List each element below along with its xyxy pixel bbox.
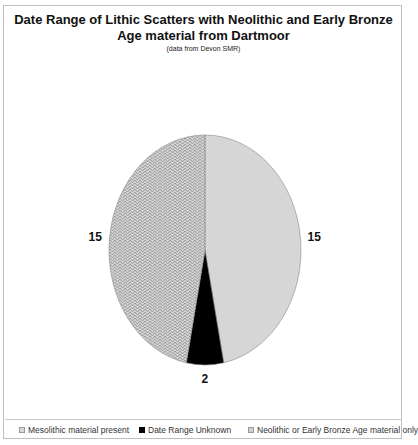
data-label-neolithic: 15 (89, 230, 102, 244)
legend-swatch-unknown-icon (139, 427, 145, 433)
legend-label: Mesolithic material present (28, 425, 129, 435)
pie-slices (109, 135, 301, 365)
legend-swatch-neolithic-icon (248, 427, 254, 433)
legend-item-mesolithic: Mesolithic material present (19, 425, 129, 435)
legend-label: Date Range Unknown (148, 425, 231, 435)
legend-label: Neolithic or Early Bronze Age material o… (257, 425, 418, 435)
pie-slice-neolithic (109, 135, 205, 363)
legend-swatch-mesolithic-icon (19, 427, 25, 433)
data-label-unknown: 2 (202, 372, 209, 386)
data-label-mesolithic: 15 (307, 230, 320, 244)
chart-legend: Mesolithic material present Date Range U… (5, 419, 401, 438)
pie-slice-mesolithic (205, 135, 301, 363)
legend-item-unknown: Date Range Unknown (139, 425, 231, 435)
legend-item-neolithic: Neolithic or Early Bronze Age material o… (248, 425, 418, 435)
